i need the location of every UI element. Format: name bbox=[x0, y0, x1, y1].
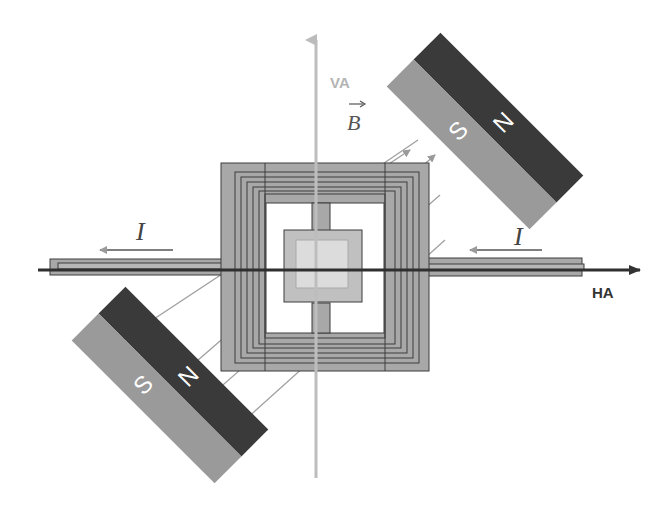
galvanometer-diagram: VA HA B I I N S N S bbox=[0, 0, 652, 509]
center-plate bbox=[284, 230, 362, 302]
vertical-axis-label: VA bbox=[330, 74, 350, 91]
svg-text:I: I bbox=[135, 217, 146, 246]
svg-text:I: I bbox=[513, 222, 524, 251]
svg-text:B: B bbox=[347, 110, 360, 135]
field-label-b: B bbox=[347, 101, 365, 135]
current-left: I bbox=[100, 217, 173, 250]
right-lead bbox=[418, 258, 584, 276]
left-lead bbox=[50, 259, 232, 275]
horizontal-axis-label: HA bbox=[592, 284, 614, 301]
